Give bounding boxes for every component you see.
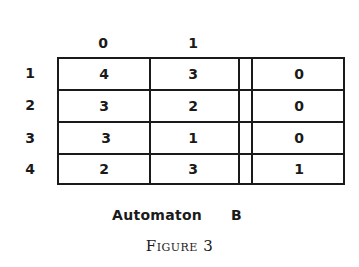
cell-r3-c0: 3 (86, 131, 126, 145)
cell-r3-c1: 1 (173, 131, 213, 145)
row-header-2: 2 (20, 98, 40, 112)
column-divider (149, 59, 151, 183)
cell-r4-output: 1 (279, 162, 319, 176)
row-divider (59, 153, 343, 155)
column-header-1: 1 (178, 36, 208, 50)
automaton-label: Automaton (112, 207, 202, 223)
cell-r2-output: 0 (279, 99, 319, 113)
cell-r3-output: 0 (279, 131, 319, 145)
row-divider (59, 89, 343, 91)
cell-r1-output: 0 (279, 67, 319, 81)
row-header-3: 3 (20, 131, 40, 145)
cell-r2-c1: 2 (173, 99, 213, 113)
cell-r4-c0: 2 (84, 162, 124, 176)
row-divider (59, 121, 343, 123)
cell-r2-c0: 3 (84, 99, 124, 113)
double-divider-right (251, 59, 253, 183)
cell-r1-c1: 3 (173, 67, 213, 81)
cell-r4-c1: 3 (173, 162, 213, 176)
automaton-name: B (231, 207, 242, 223)
column-header-0: 0 (88, 36, 118, 50)
transition-table: 4 3 0 3 2 0 3 1 0 2 3 1 (57, 57, 345, 185)
row-header-4: 4 (20, 162, 40, 176)
double-divider-left (238, 59, 240, 183)
row-header-1: 1 (20, 66, 40, 80)
cell-r1-c0: 4 (84, 67, 124, 81)
figure-caption: Figure 3 (0, 237, 359, 255)
